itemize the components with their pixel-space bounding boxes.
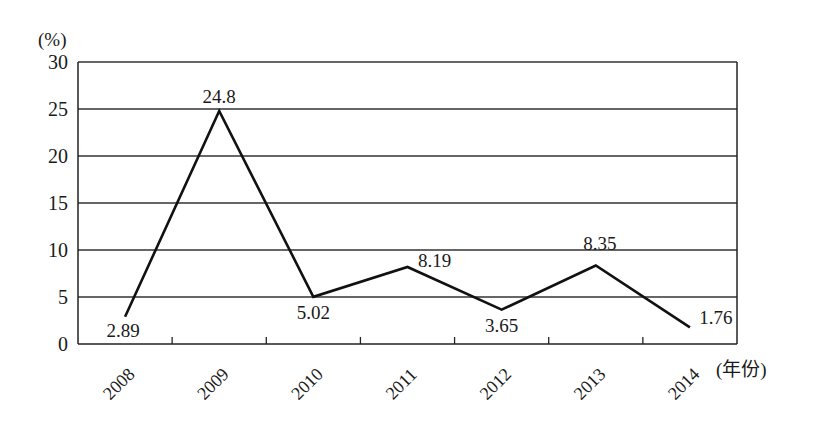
data-line [125,111,690,328]
data-label: 8.19 [418,250,451,271]
x-axis-ticks: 2008200920102011201220132014 [99,337,703,404]
y-axis-ticks: 051015202530 [48,51,68,355]
y-tick-label: 5 [58,286,68,308]
y-tick-label: 0 [58,333,68,355]
line-chart: 051015202530 200820092010201120122013201… [0,0,823,421]
y-tick-label: 30 [48,51,68,73]
data-labels: 2.8924.85.028.193.658.351.76 [106,86,732,341]
x-tick-label: 2011 [382,364,421,403]
y-tick-label: 20 [48,145,68,167]
x-tick-label: 2013 [570,364,610,404]
data-label: 24.8 [203,86,236,107]
data-label: 8.35 [583,233,616,254]
x-tick-label: 2012 [476,364,516,404]
y-tick-label: 10 [48,239,68,261]
y-tick-label: 25 [48,98,68,120]
gridlines [78,62,737,297]
x-tick-label: 2008 [99,364,139,404]
data-label: 5.02 [297,302,330,323]
x-tick-label: 2009 [193,364,233,404]
x-tick-label: 2010 [287,364,327,404]
y-tick-label: 15 [48,192,68,214]
y-axis-label: (%) [38,29,66,51]
data-label: 2.89 [106,320,139,341]
x-tick-label: 2014 [664,364,704,404]
data-label: 3.65 [485,315,518,336]
x-axis-label: (年份) [716,359,767,381]
data-label: 1.76 [699,307,732,328]
